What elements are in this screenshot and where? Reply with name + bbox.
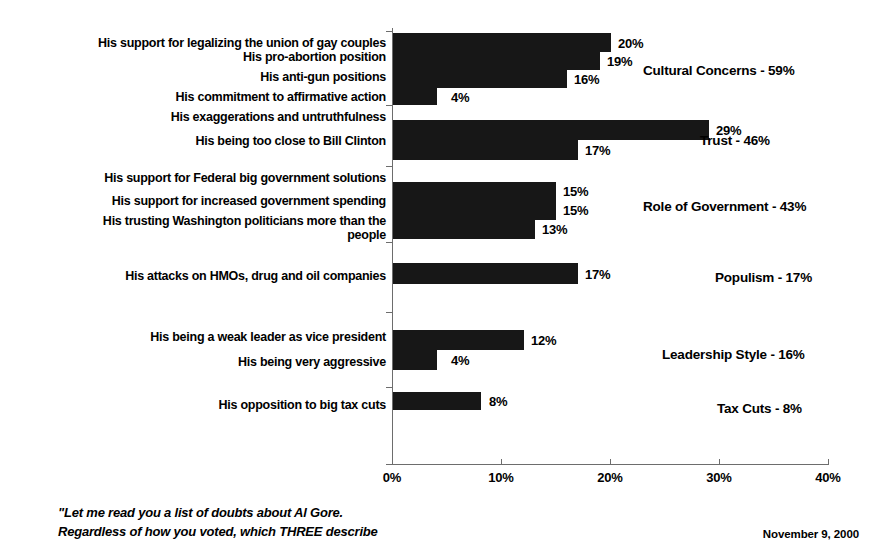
item-label-6: His support for Federal big government s… xyxy=(8,171,386,185)
bar-value-11: 4% xyxy=(451,353,469,368)
y-tick-group-5-start xyxy=(386,387,393,388)
bar-11 xyxy=(393,350,437,370)
y-tick-axis-end xyxy=(386,464,393,465)
x-tick-label-0: 0% xyxy=(383,470,401,485)
bar-2 xyxy=(393,70,567,88)
bar-4 xyxy=(393,120,709,140)
group-label-trust: Trust - 46% xyxy=(700,133,770,148)
item-label-10: His being a weak leader as vice presiden… xyxy=(8,330,386,344)
group-label-role-of-government: Role of Government - 43% xyxy=(643,199,806,214)
item-label-8: His trusting Washington politicians more… xyxy=(8,214,386,242)
group-label-cultural-concerns: Cultural Concerns - 59% xyxy=(643,63,794,78)
bar-value-0: 20% xyxy=(618,36,643,51)
y-tick-group-0-start xyxy=(386,31,393,32)
bar-7 xyxy=(393,201,556,220)
question-footnote: "Let me read you a list of doubts about … xyxy=(58,503,378,541)
item-label-0: His support for legalizing the union of … xyxy=(8,36,386,50)
item-label-12: His opposition to big tax cuts xyxy=(8,398,386,412)
item-label-11: His being very aggressive xyxy=(8,355,386,369)
x-tick-2 xyxy=(610,459,611,465)
x-tick-3 xyxy=(719,459,720,465)
bar-10 xyxy=(393,330,524,350)
item-label-7: His support for increased government spe… xyxy=(8,194,386,208)
item-label-3: His commitment to affirmative action xyxy=(8,90,386,104)
bar-value-1: 19% xyxy=(607,54,632,69)
item-label-2: His anti-gun positions xyxy=(8,70,386,84)
bar-1 xyxy=(393,52,600,70)
bar-12 xyxy=(393,392,481,410)
bar-8 xyxy=(393,220,535,239)
x-tick-4 xyxy=(828,459,829,465)
y-tick-group-4-start xyxy=(386,312,393,313)
bar-value-12: 8% xyxy=(489,394,507,409)
bar-5 xyxy=(393,140,578,160)
x-tick-1 xyxy=(501,459,502,465)
item-label-9: His attacks on HMOs, drug and oil compan… xyxy=(8,269,386,283)
x-tick-label-3: 30% xyxy=(706,470,731,485)
group-label-populism: Populism - 17% xyxy=(715,270,812,285)
bar-value-9: 17% xyxy=(585,267,610,282)
item-label-5: His being too close to Bill Clinton xyxy=(8,134,386,148)
x-tick-label-4: 40% xyxy=(815,470,840,485)
bar-value-10: 12% xyxy=(531,333,556,348)
group-label-tax-cuts: Tax Cuts - 8% xyxy=(717,401,802,416)
y-tick-group-2-start xyxy=(386,166,393,167)
bar-chart: 0% 10% 20% 30% 40% His support for legal… xyxy=(0,0,877,547)
bar-3 xyxy=(393,88,437,105)
x-tick-label-1: 10% xyxy=(488,470,513,485)
item-label-4: His exaggerations and untruthfulness xyxy=(8,110,386,124)
bar-0 xyxy=(393,33,611,52)
group-label-leadership-style: Leadership Style - 16% xyxy=(662,347,805,362)
y-tick-group-3-start xyxy=(386,242,393,243)
bar-value-8: 13% xyxy=(542,222,567,237)
bar-value-6: 15% xyxy=(563,184,588,199)
bar-6 xyxy=(393,182,556,201)
x-tick-label-2: 20% xyxy=(597,470,622,485)
bar-9 xyxy=(393,263,578,284)
bar-value-5: 17% xyxy=(585,143,610,158)
bar-value-7: 15% xyxy=(563,203,588,218)
bar-value-2: 16% xyxy=(574,72,599,87)
bar-value-3: 4% xyxy=(451,90,469,105)
item-label-1: His pro-abortion position xyxy=(8,50,386,64)
date-label: November 9, 2000 xyxy=(763,528,859,540)
y-tick-group-1-start xyxy=(386,105,393,106)
